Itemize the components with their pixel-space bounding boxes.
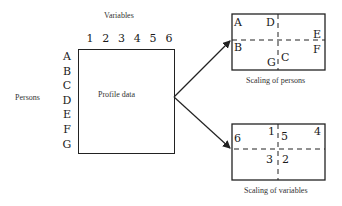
- column-label: 5: [145, 32, 161, 45]
- column-label: 4: [129, 32, 145, 45]
- persons-label: Persons: [15, 93, 40, 102]
- point-D: D: [266, 17, 275, 28]
- profile-data-label: Profile data: [98, 90, 135, 99]
- row-label: E: [61, 108, 73, 123]
- variables-heading: Variables: [104, 11, 134, 20]
- column-label: 6: [161, 32, 177, 45]
- profile-data-box: [78, 49, 175, 154]
- point-6: 6: [234, 133, 241, 144]
- row-label: A: [61, 50, 73, 65]
- point-B: B: [234, 42, 242, 53]
- variable-column-labels: 123456: [82, 32, 177, 45]
- row-label: B: [61, 65, 73, 80]
- point-G: G: [267, 57, 276, 68]
- persons-caption: Scaling of persons: [246, 76, 305, 85]
- point-4: 4: [314, 126, 321, 137]
- person-row-labels: A B C D E F G: [61, 50, 73, 152]
- variables-caption: Scaling of variables: [244, 186, 308, 195]
- point-2: 2: [282, 154, 289, 165]
- row-label: G: [61, 138, 73, 153]
- point-5: 5: [281, 131, 288, 142]
- arrow-to-variables: [174, 97, 230, 148]
- row-label: F: [61, 123, 73, 138]
- row-label: D: [61, 94, 73, 109]
- point-C: C: [281, 52, 289, 63]
- column-label: 1: [82, 32, 98, 45]
- column-label: 3: [114, 32, 130, 45]
- row-label: C: [61, 79, 73, 94]
- point-3: 3: [266, 154, 273, 165]
- arrow-to-persons: [174, 41, 230, 97]
- point-A: A: [234, 17, 242, 28]
- point-E: E: [313, 29, 321, 40]
- column-label: 2: [98, 32, 114, 45]
- point-F: F: [313, 44, 321, 55]
- point-1: 1: [268, 126, 275, 137]
